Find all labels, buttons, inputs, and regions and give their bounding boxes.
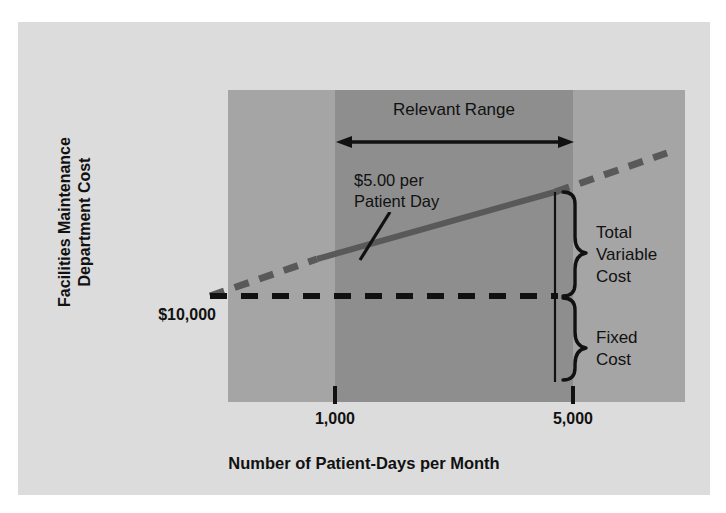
fixed-cost-line1: Fixed — [596, 327, 638, 349]
y-axis-title-line2: Department Cost — [75, 107, 95, 337]
y-axis-title-line1: Facilities Maintenance — [55, 107, 75, 337]
total-variable-cost-label: Total Variable Cost — [596, 222, 657, 287]
y-axis-title: Facilities Maintenance Department Cost — [55, 107, 95, 337]
total-variable-cost-line1: Total — [596, 222, 657, 244]
chart-figure: Relevant Range $5.00 per Patient Day Tot… — [18, 22, 710, 495]
total-variable-cost-brace — [563, 192, 586, 296]
x-tick-mark-1000 — [333, 386, 337, 404]
total-variable-cost-line2: Variable — [596, 244, 657, 266]
total-variable-cost-line3: Cost — [596, 266, 657, 288]
fixed-cost-line2: Cost — [596, 349, 638, 371]
x-axis-title: Number of Patient-Days per Month — [18, 454, 710, 473]
x-tick-label-5000: 5,000 — [527, 410, 619, 428]
x-tick-label-1000: 1,000 — [289, 410, 381, 428]
x-tick-mark-5000 — [571, 386, 575, 404]
fixed-cost-brace — [563, 298, 586, 380]
fixed-cost-label: Fixed Cost — [596, 327, 638, 371]
y-tick-label-10000: $10,000 — [88, 306, 216, 324]
